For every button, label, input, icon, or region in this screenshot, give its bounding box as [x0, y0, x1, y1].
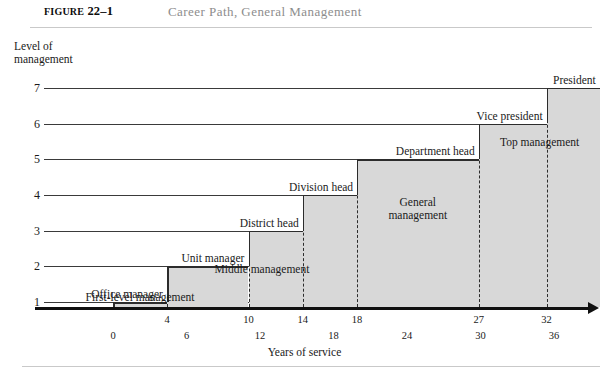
shade-region-4 — [303, 195, 357, 307]
shade-region-7 — [547, 88, 600, 307]
y-tick-3: 3 — [26, 225, 40, 237]
x-tick-lower-6: 6 — [174, 330, 200, 341]
step-label-district-head: District head — [240, 217, 299, 229]
x-tick-lower-18: 18 — [321, 330, 347, 341]
x-tick-lower-36: 36 — [541, 330, 567, 341]
step-tread-5 — [357, 159, 479, 161]
chart-plot-area: 1234567Office managerUnit managerDistric… — [0, 0, 609, 380]
band-label-2: General management — [388, 196, 447, 222]
x-tick-lower-30: 30 — [468, 330, 494, 341]
band-label-3: Top management — [500, 136, 579, 149]
band-label-1: Middle management — [215, 263, 310, 276]
gridline-level-7 — [44, 88, 600, 89]
step-tread-4 — [303, 195, 357, 197]
step-tread-7 — [547, 88, 600, 90]
x-tick-lower-0: 0 — [100, 330, 126, 341]
x-tick-lower-12: 12 — [247, 330, 273, 341]
x-tick-upper-14: 14 — [290, 314, 316, 325]
step-label-division-head: Division head — [289, 181, 353, 193]
y-tick-5: 5 — [26, 153, 40, 165]
y-tick-2: 2 — [26, 260, 40, 272]
y-tick-4: 4 — [26, 189, 40, 201]
x-tick-upper-4: 4 — [154, 314, 180, 325]
x-tick-lower-24: 24 — [394, 330, 420, 341]
shade-region-5 — [357, 159, 479, 307]
shade-region-6 — [479, 124, 547, 308]
x-tick-upper-27: 27 — [466, 314, 492, 325]
x-tick-upper-10: 10 — [236, 314, 262, 325]
x-axis-line — [35, 307, 591, 310]
step-tread-3 — [249, 231, 303, 233]
figure-page: FIGURE 22–1 Career Path, General Managem… — [0, 0, 609, 380]
x-tick-upper-32: 32 — [534, 314, 560, 325]
y-tick-6: 6 — [26, 118, 40, 130]
band-label-0: First-level management — [86, 291, 195, 304]
step-label-vice-president: Vice president — [477, 110, 543, 122]
step-label-department-head: Department head — [396, 145, 475, 157]
x-axis-arrow — [588, 302, 599, 314]
riser-dash-year-18 — [357, 161, 358, 307]
step-tread-6 — [479, 124, 547, 126]
step-label-president: President — [553, 74, 596, 86]
riser-dash-year-27 — [479, 126, 480, 308]
riser-dash-year-14 — [303, 197, 304, 307]
riser-dash-year-32 — [547, 90, 548, 307]
x-tick-upper-18: 18 — [344, 314, 370, 325]
y-tick-7: 7 — [26, 82, 40, 94]
